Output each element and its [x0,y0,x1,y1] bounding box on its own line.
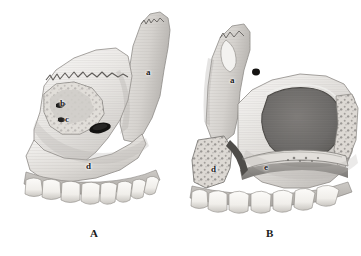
anatomical-plate [0,0,361,256]
tooth [61,181,80,202]
tooth [100,182,117,204]
panel-a-label-d: d [86,162,91,171]
tooth [229,191,249,213]
tooth [191,190,208,209]
figure-root: a b c d a d e A B [0,0,361,256]
tooth [42,179,61,199]
panel-b-label-e: e [264,163,268,172]
figure-caption [0,246,361,256]
panel-b-infraorbital-foramen [252,69,260,76]
tooth [273,190,293,212]
tooth [316,185,339,206]
tooth [25,178,43,197]
panel-a-label-c: c [65,115,69,124]
tooth [251,191,271,213]
panel-caption-b: B [266,228,273,239]
panel-a-label-b: b [60,99,65,108]
tooth [116,181,132,202]
tooth [294,188,315,210]
panel-a-label-a: a [146,68,151,77]
panel-b-label-a: a [230,76,235,85]
tooth [208,191,227,213]
panel-caption-a: A [90,228,98,239]
tooth [81,182,100,204]
panel-b-label-d: d [211,165,216,174]
